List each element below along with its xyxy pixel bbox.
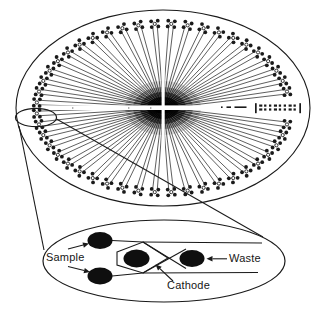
- reservoir-dot: [32, 104, 36, 108]
- reservoir-dot: [32, 115, 36, 119]
- reservoir-dot: [166, 25, 170, 29]
- cluster-center-circle: [56, 60, 59, 63]
- reservoir-dot: [82, 170, 86, 174]
- reservoir-dot: [278, 141, 282, 145]
- cluster-center-circle: [42, 133, 45, 136]
- reservoir-dot: [52, 61, 56, 65]
- anode-dash: [221, 106, 223, 108]
- cluster-center-circle: [121, 27, 124, 30]
- reservoir-dot: [282, 125, 286, 129]
- cluster-center-circle: [245, 170, 248, 173]
- band-speck: [72, 107, 73, 108]
- cluster-center-circle: [35, 112, 38, 115]
- reservoir-dot: [197, 27, 201, 31]
- reservoir-dot: [104, 177, 108, 181]
- reservoir-dot: [39, 137, 43, 141]
- reservoir-dot: [104, 35, 108, 39]
- reservoir-dot: [260, 160, 264, 164]
- reservoir-dot: [101, 182, 105, 186]
- reservoir-dot: [91, 40, 95, 44]
- reservoir-dot: [78, 47, 82, 51]
- cluster-center-circle: [267, 60, 270, 63]
- cluster-center-circle: [48, 144, 51, 147]
- reservoir-dot: [70, 163, 74, 167]
- reservoir-dot: [156, 193, 160, 197]
- figure-canvas: Sample Waste Cathode: [0, 0, 321, 313]
- reservoir-dot: [40, 87, 44, 91]
- reservoir-dot: [91, 32, 95, 36]
- reservoir-dot: [249, 44, 253, 48]
- cluster-center-circle: [285, 90, 288, 93]
- cluster-center-circle: [137, 189, 140, 192]
- reservoir-dot: [227, 36, 231, 40]
- marking-bracket-left: [255, 103, 257, 113]
- cluster-center-circle: [91, 36, 94, 39]
- band-speck: [150, 107, 151, 108]
- reservoir-dot: [132, 22, 136, 26]
- reservoir-dot: [52, 67, 56, 71]
- reservoir-dot: [149, 193, 153, 197]
- reservoir-dot: [34, 93, 38, 97]
- reservoir-dot: [52, 151, 56, 155]
- reservoir-dot: [271, 67, 275, 71]
- cluster-center-circle: [170, 190, 173, 193]
- sample-label: Sample: [46, 251, 85, 263]
- reservoir-dot: [283, 119, 287, 123]
- reservoir-dot: [38, 82, 42, 86]
- band-speck: [128, 107, 129, 108]
- cluster-center-circle: [232, 36, 235, 39]
- cluster-center-circle: [281, 133, 284, 136]
- reservoir-dot: [106, 26, 110, 30]
- marking-glyph: [274, 105, 277, 107]
- marking-glyph: [264, 105, 266, 107]
- reservoir-dot: [106, 186, 110, 190]
- marking-glyph: [284, 105, 286, 107]
- reservoir-dot: [78, 165, 82, 169]
- reservoir-dot: [70, 49, 74, 53]
- reservoir-dot: [140, 187, 144, 191]
- reservoir-dot: [260, 52, 264, 56]
- cluster-center-circle: [37, 123, 40, 126]
- reservoir-dot: [119, 30, 123, 34]
- reservoir-dot: [73, 169, 77, 173]
- reservoir-dot: [38, 97, 42, 101]
- reservoir-dot: [49, 139, 53, 143]
- reservoir-dot: [216, 26, 220, 30]
- reservoir-dot: [221, 30, 225, 34]
- reservoir-dot: [240, 42, 244, 46]
- marking-glyph: [294, 105, 296, 107]
- reservoir-dot: [39, 75, 43, 79]
- marking-glyph: [269, 105, 271, 107]
- reservoir-dot: [95, 36, 99, 40]
- reservoir-dot: [73, 44, 77, 48]
- reservoir-dot: [86, 176, 90, 180]
- marking-bracket-right: [299, 103, 301, 113]
- cluster-center-circle: [267, 153, 270, 156]
- marking-glyph: [294, 108, 296, 110]
- reservoir-dot: [276, 147, 280, 151]
- waste-label: Waste: [229, 252, 261, 264]
- cluster-center-circle: [186, 189, 189, 192]
- cluster-center-circle: [275, 144, 278, 147]
- reservoir-dot: [283, 93, 287, 97]
- cluster-center-circle: [56, 153, 59, 156]
- reservoir-dot: [125, 185, 129, 189]
- cluster-center-circle: [256, 162, 259, 165]
- reservoir-dot: [86, 36, 90, 40]
- reservoir-dot: [232, 172, 236, 176]
- reservoir-dot: [188, 27, 192, 31]
- reservoir-dot: [257, 46, 261, 50]
- cathode-label: Cathode: [167, 279, 210, 291]
- reservoir-dot: [245, 38, 249, 42]
- reservoir-dot: [270, 151, 274, 155]
- anode-dash: [235, 106, 247, 108]
- reservoir-dot: [218, 35, 222, 39]
- reservoir-dot: [35, 86, 39, 90]
- reservoir-dot: [91, 181, 95, 185]
- microdevice-diagram: [0, 0, 321, 313]
- reservoir-dot: [203, 182, 207, 186]
- reservoir-dot: [82, 42, 86, 46]
- cluster-center-circle: [153, 22, 156, 25]
- cluster-center-circle: [281, 79, 284, 82]
- reservoir-dot: [279, 129, 283, 133]
